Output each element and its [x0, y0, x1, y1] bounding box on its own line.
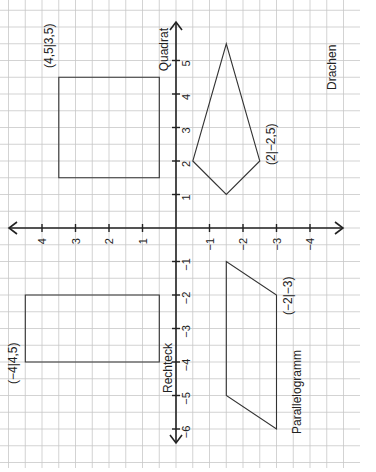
tick-label: 3 [70, 238, 82, 244]
tick-label: −2 [180, 292, 192, 305]
tick-label: −5 [180, 392, 192, 405]
rectangle-name-label: Rechteck [161, 342, 175, 393]
tick-label: 5 [180, 60, 192, 66]
tick-label: 4 [36, 238, 48, 244]
square-corner-label: (4,5|3,5) [42, 24, 56, 68]
tick-label: −1 [180, 258, 192, 271]
parallelogram-name-label: Parallelogramm [290, 350, 304, 434]
kite-corner-label: (2|−2,5) [264, 124, 278, 165]
tick-label: −4 [304, 238, 316, 251]
shapes [25, 44, 276, 429]
tick-label: 2 [180, 161, 192, 167]
tick-label: −3 [271, 238, 283, 251]
tick-label: 4 [180, 94, 192, 100]
tick-label: 3 [180, 127, 192, 133]
parallelogram-corner-label: (−2|−3) [281, 277, 295, 315]
tick-label: 2 [103, 238, 115, 244]
tick-label: −2 [237, 238, 249, 251]
square-name-label: Quadrat [157, 27, 171, 71]
tick-label: 1 [180, 194, 192, 200]
kite-name-label: Drachen [325, 45, 339, 90]
tick-label: −6 [180, 426, 192, 439]
tick-label: −1 [204, 238, 216, 251]
tick-label: −4 [180, 359, 192, 372]
vertical-axis-ticks: 54321−1−2−3−4−5−6 [172, 60, 192, 438]
tick-label: −3 [180, 325, 192, 338]
rectangle-corner-label: (−4|4,5) [6, 343, 20, 384]
tick-label: 1 [137, 238, 149, 244]
coordinate-diagram: 4321−1−2−3−4 54321−1−2−3−4−5−6 Quadrat (… [0, 0, 376, 472]
